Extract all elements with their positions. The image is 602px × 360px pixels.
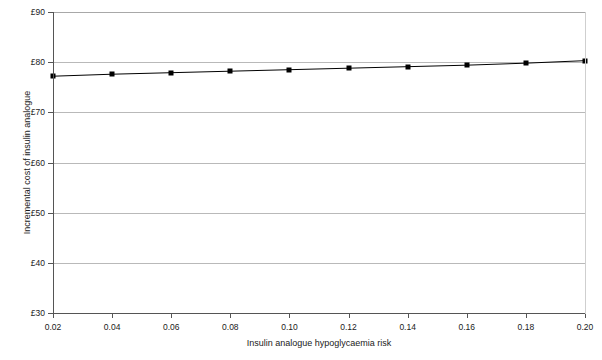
series-line bbox=[53, 12, 585, 313]
x-tick-label: 0.12 bbox=[340, 322, 357, 332]
x-tick-label: 0.06 bbox=[163, 322, 180, 332]
data-point-marker bbox=[346, 66, 351, 71]
x-tick-label: 0.04 bbox=[104, 322, 121, 332]
x-tick-label: 0.20 bbox=[577, 322, 594, 332]
x-axis-title: Insulin analogue hypoglycaemia risk bbox=[53, 338, 585, 348]
chart-container: £30£40£50£60£70£80£90 0.020.040.060.080.… bbox=[0, 0, 602, 360]
data-point-marker bbox=[523, 61, 528, 66]
plot-area: £30£40£50£60£70£80£90 0.020.040.060.080.… bbox=[53, 12, 585, 313]
y-axis-line bbox=[53, 12, 54, 314]
x-tick-label: 0.18 bbox=[518, 322, 535, 332]
x-tick-label: 0.10 bbox=[281, 322, 298, 332]
data-point-marker bbox=[287, 67, 292, 72]
x-tick-label: 0.14 bbox=[399, 322, 416, 332]
x-tick-label: 0.02 bbox=[45, 322, 62, 332]
plot-right-border bbox=[585, 12, 586, 314]
data-point-marker bbox=[169, 70, 174, 75]
x-tick-label: 0.08 bbox=[222, 322, 239, 332]
data-point-marker bbox=[464, 63, 469, 68]
data-point-marker bbox=[228, 69, 233, 74]
x-axis-line bbox=[53, 313, 586, 314]
y-axis-title: Incremental cost of insulin analogue bbox=[22, 12, 36, 313]
x-tick-label: 0.16 bbox=[458, 322, 475, 332]
data-point-marker bbox=[110, 72, 115, 77]
data-point-marker bbox=[405, 64, 410, 69]
